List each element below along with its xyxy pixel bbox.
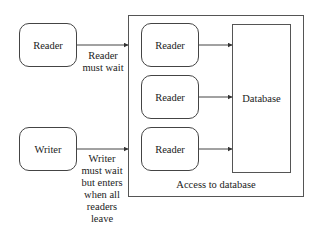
reader-wait-note: Reader must wait — [78, 50, 128, 74]
note-line: leave — [76, 213, 128, 225]
note-line: must wait — [78, 62, 128, 74]
note-line: must wait — [76, 165, 128, 177]
note-line: readers — [76, 201, 128, 213]
note-line: when all — [76, 189, 128, 201]
note-line: Reader — [78, 50, 128, 62]
edge-arrows — [0, 0, 320, 234]
note-line: but enters — [76, 177, 128, 189]
writer-wait-note: Writer must wait but enters when all rea… — [76, 153, 128, 225]
container-caption: Access to database — [128, 179, 304, 191]
note-line: Writer — [76, 153, 128, 165]
